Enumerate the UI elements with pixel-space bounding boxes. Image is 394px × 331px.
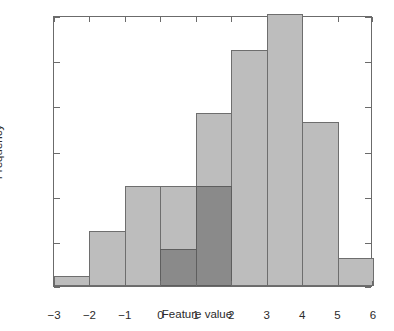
x-axis-tick-top [302, 17, 303, 22]
y-axis-tick-right [365, 198, 371, 199]
x-axis-tick [160, 281, 161, 286]
x-axis-tick [54, 281, 55, 286]
x-axis-tick [372, 281, 373, 286]
y-axis-tick [54, 198, 60, 199]
y-axis-tick-right [365, 107, 371, 108]
y-axis-tick-right [365, 243, 371, 244]
x-axis-tick [231, 281, 232, 286]
y-axis-tick [54, 287, 60, 288]
histogram-bar-overlay [196, 186, 232, 286]
x-axis-tick-top [160, 17, 161, 22]
x-axis-tick-label: 5 [323, 309, 353, 321]
x-axis-tick-top [338, 17, 339, 22]
y-axis-tick [54, 107, 60, 108]
y-axis-tick [54, 243, 60, 244]
x-axis-tick-label: −1 [110, 309, 140, 321]
y-axis-tick [54, 62, 60, 63]
x-axis-tick-label: −2 [74, 309, 104, 321]
x-axis-tick [338, 281, 339, 286]
y-axis-tick [54, 153, 60, 154]
y-axis-tick-right [365, 153, 371, 154]
x-axis-tick-label: 3 [252, 309, 282, 321]
x-axis-tick [196, 281, 197, 286]
x-axis-tick-top [196, 17, 197, 22]
plot-area: 051015202530−3−2−10123456 [53, 16, 372, 287]
x-axis-tick-top [231, 17, 232, 22]
x-axis-tick-top [125, 17, 126, 22]
x-axis-tick-label: 0 [145, 309, 175, 321]
histogram-bar-overlay [160, 249, 196, 286]
x-axis-tick [89, 281, 90, 286]
x-axis-tick [267, 281, 268, 286]
dark-series-bars [54, 17, 371, 286]
x-axis-tick-label: 1 [181, 309, 211, 321]
histogram-figure: Frequency Feature value 051015202530−3−2… [0, 0, 394, 331]
y-axis-tick-right [365, 287, 371, 288]
x-axis-tick-label: 2 [216, 309, 246, 321]
x-axis-tick-top [267, 17, 268, 22]
x-axis-tick-top [89, 17, 90, 22]
y-axis-title: Frequency [0, 125, 4, 179]
y-axis-tick-right [365, 62, 371, 63]
x-axis-tick [125, 281, 126, 286]
x-axis-tick-label: 4 [287, 309, 317, 321]
y-axis-tick-right [365, 17, 371, 18]
x-axis-tick-top [54, 17, 55, 22]
x-axis-tick [302, 281, 303, 286]
x-axis-tick-label: −3 [39, 309, 69, 321]
x-axis-tick-label: 6 [358, 309, 388, 321]
x-axis-tick-top [372, 17, 373, 22]
